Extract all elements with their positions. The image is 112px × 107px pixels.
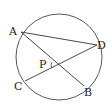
chord-cd: [25, 45, 97, 81]
label-c: C: [14, 80, 22, 93]
angle-arc-p: [51, 62, 52, 68]
label-d: D: [97, 39, 106, 52]
label-b: B: [84, 86, 92, 99]
label-p: P: [39, 58, 47, 71]
circle-diagram: A D P C B: [0, 0, 112, 107]
label-a: A: [8, 25, 18, 38]
chord-ad: [21, 32, 97, 45]
